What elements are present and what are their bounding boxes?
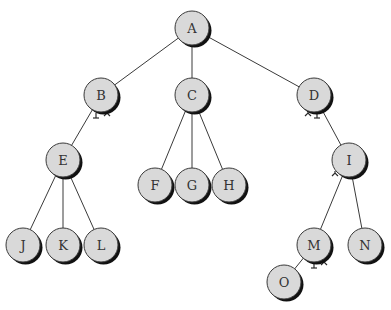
tree-node-k: K bbox=[46, 228, 83, 265]
node-label: F bbox=[150, 178, 159, 193]
node-label: L bbox=[97, 238, 106, 253]
tree-node-o: O bbox=[267, 265, 304, 302]
tree-node-b: B bbox=[84, 78, 121, 115]
node-label: E bbox=[58, 153, 68, 168]
node-label: G bbox=[187, 178, 197, 193]
tree-node-c: C bbox=[175, 78, 212, 115]
tree-node-f: F bbox=[138, 168, 175, 205]
node-label: N bbox=[359, 238, 370, 253]
node-label: H bbox=[223, 178, 234, 193]
tree-node-j: J bbox=[6, 228, 43, 265]
node-label: M bbox=[307, 238, 320, 253]
tree-node-e: E bbox=[46, 143, 83, 180]
node-label: J bbox=[18, 238, 25, 253]
node-label: K bbox=[58, 238, 68, 253]
tree-nodes: ABCDEFGHIJKLMNO bbox=[6, 11, 385, 302]
tree-node-n: N bbox=[348, 228, 385, 265]
node-label: O bbox=[279, 275, 290, 290]
tree-node-g: G bbox=[175, 168, 212, 205]
null-pointer-icon bbox=[93, 113, 99, 118]
node-label: B bbox=[96, 88, 106, 103]
node-label: D bbox=[309, 88, 319, 103]
tree-node-h: H bbox=[212, 168, 249, 205]
tree-node-l: L bbox=[84, 228, 121, 265]
node-label: A bbox=[186, 21, 197, 36]
tree-node-a: A bbox=[175, 11, 212, 48]
tree-node-d: D bbox=[297, 78, 334, 115]
tree-node-i: I bbox=[332, 143, 369, 180]
node-label: I bbox=[346, 153, 351, 168]
tree-diagram: ABCDEFGHIJKLMNO bbox=[0, 0, 391, 310]
edge-a-d bbox=[192, 28, 314, 95]
node-label: C bbox=[187, 88, 197, 103]
